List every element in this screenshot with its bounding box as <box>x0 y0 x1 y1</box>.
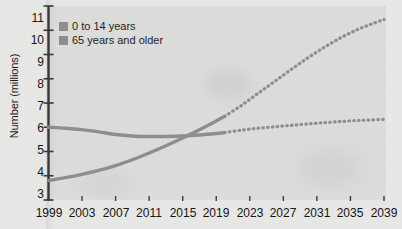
series-line-solid-1 <box>49 116 225 180</box>
series-line-projected-0 <box>225 119 384 132</box>
series-lines <box>49 20 385 181</box>
series-line-projected-1 <box>225 20 384 117</box>
x-tick-marks <box>49 196 385 201</box>
